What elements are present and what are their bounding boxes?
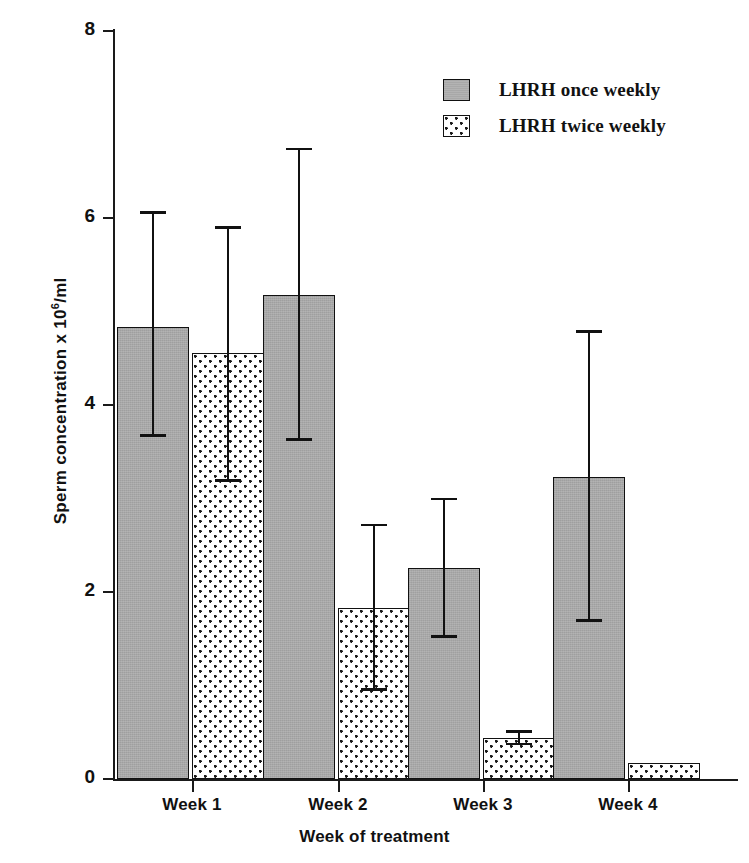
bar-twice-weekly-week-4 — [628, 763, 700, 779]
error-bar-cap-upper — [215, 226, 241, 229]
error-bar-stem — [373, 524, 375, 691]
x-tick-label-week-1: Week 1 — [122, 795, 262, 815]
error-bar-cap-upper — [361, 524, 387, 527]
y-tick-label: 8 — [55, 18, 95, 40]
error-bar-cap-lower — [140, 434, 166, 437]
error-bar-twice-weekly-week-3 — [483, 730, 555, 745]
error-bar-stem — [152, 211, 154, 436]
y-axis-title-exponent: 6 — [49, 303, 61, 309]
x-tick-label-week-4: Week 4 — [558, 795, 698, 815]
y-axis-title-pre: Sperm concentration x 10 — [51, 309, 70, 524]
x-tick-mark — [628, 781, 630, 792]
x-tick-label-week-2: Week 2 — [268, 795, 408, 815]
x-tick-mark — [192, 781, 194, 792]
y-axis-title-post: /ml — [51, 277, 70, 302]
error-bar-twice-weekly-week-2 — [338, 524, 410, 691]
x-axis-title: Week of treatment — [0, 827, 749, 847]
error-bar-cap-upper — [431, 498, 457, 501]
y-tick-mark — [103, 30, 114, 32]
x-tick-label-week-3: Week 3 — [413, 795, 553, 815]
legend-swatch-solid-icon — [443, 79, 470, 101]
error-bar-cap-upper — [506, 730, 532, 733]
error-bar-twice-weekly-week-1 — [192, 226, 264, 481]
error-bar-cap-lower — [506, 743, 532, 746]
error-bar-cap-lower — [576, 619, 602, 622]
error-bar-stem — [298, 148, 300, 441]
legend-item-twice-weekly: LHRH twice weekly — [443, 108, 666, 144]
error-bar-once-weekly-week-3 — [408, 498, 480, 638]
error-bar-once-weekly-week-4 — [553, 330, 625, 622]
y-tick-mark — [103, 591, 114, 593]
bar-chart-figure: 02468 Week 1Week 2Week 3Week 4 Week of t… — [0, 0, 749, 863]
error-bar-cap-upper — [576, 330, 602, 333]
y-tick-mark — [103, 217, 114, 219]
legend-label-twice-weekly: LHRH twice weekly — [499, 115, 666, 137]
legend: LHRH once weekly LHRH twice weekly — [443, 72, 666, 144]
x-tick-mark — [483, 781, 485, 792]
error-bar-stem — [443, 498, 445, 638]
error-bar-cap-lower — [286, 438, 312, 441]
legend-swatch-dotted-icon — [443, 115, 470, 137]
error-bar-stem — [227, 226, 229, 481]
error-bar-cap-lower — [431, 635, 457, 638]
legend-item-once-weekly: LHRH once weekly — [443, 72, 666, 108]
y-axis-title: Sperm concentration x 106/ml — [49, 191, 71, 611]
y-tick-mark — [103, 778, 114, 780]
error-bar-cap-upper — [286, 148, 312, 151]
error-bar-cap-lower — [361, 688, 387, 691]
error-bar-once-weekly-week-1 — [117, 211, 189, 436]
y-tick-label: 0 — [55, 766, 95, 788]
legend-label-once-weekly: LHRH once weekly — [499, 79, 661, 101]
error-bar-once-weekly-week-2 — [263, 148, 335, 441]
y-tick-mark — [103, 404, 114, 406]
error-bar-stem — [588, 330, 590, 622]
x-axis-line — [113, 779, 738, 781]
error-bar-cap-upper — [140, 211, 166, 214]
x-tick-mark — [338, 781, 340, 792]
error-bar-cap-lower — [215, 479, 241, 482]
